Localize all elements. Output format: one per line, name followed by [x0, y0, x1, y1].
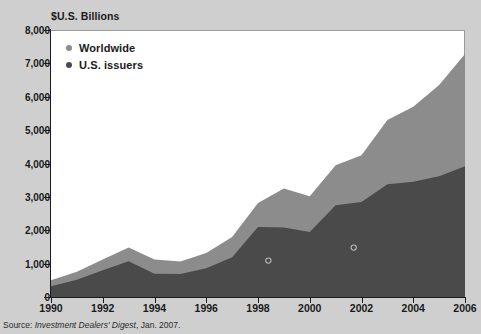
x-axis-tick-mark	[413, 297, 414, 303]
y-axis-tick-mark	[44, 197, 50, 198]
x-axis-tick-label: 1994	[143, 302, 166, 314]
legend-dot-worldwide-icon	[66, 45, 72, 51]
legend-label-worldwide: Worldwide	[79, 42, 135, 54]
y-axis-tick-mark	[44, 63, 50, 64]
x-axis-tick-mark	[155, 297, 156, 303]
x-axis-tick-label: 1990	[39, 302, 62, 314]
chart-figure: $U.S. Billions 01,0002,0003,0004,0005,00…	[0, 0, 481, 334]
source-publication: Investment Dealers' Digest	[35, 320, 136, 330]
x-axis-tick-label: 2006	[453, 302, 476, 314]
y-axis-line	[50, 29, 51, 298]
y-axis-tick-mark	[44, 297, 50, 298]
x-axis-tick-label: 1996	[195, 302, 218, 314]
y-axis-tick-mark	[44, 97, 50, 98]
x-axis-tick-label: 1998	[246, 302, 269, 314]
x-axis-tick-label: 1992	[91, 302, 114, 314]
chart-legend: Worldwide U.S. issuers	[66, 42, 143, 76]
y-axis-tick-mark	[44, 130, 50, 131]
legend-item-worldwide: Worldwide	[66, 42, 143, 54]
y-axis-tick-mark	[44, 230, 50, 231]
x-axis-tick-mark	[51, 297, 52, 303]
y-axis-tick-mark	[44, 30, 50, 31]
y-axis-unit-label: $U.S. Billions	[51, 10, 120, 22]
x-axis-tick-label: 2002	[350, 302, 373, 314]
x-axis-tick-label: 2000	[298, 302, 321, 314]
x-axis-tick-mark	[362, 297, 363, 303]
source-caption: Source: Investment Dealers' Digest, Jan.…	[3, 320, 180, 330]
x-axis-tick-mark	[206, 297, 207, 303]
x-axis-tick-mark	[310, 297, 311, 303]
x-axis-tick-mark	[465, 297, 466, 303]
source-prefix: Source:	[3, 320, 35, 330]
x-axis-tick-label: 2004	[402, 302, 425, 314]
y-axis-tick-group: 01,0002,0003,0004,0005,0006,0007,0008,00…	[0, 0, 50, 334]
area-series-us-issuers	[51, 166, 465, 297]
source-suffix: , Jan. 2007.	[136, 320, 180, 330]
legend-dot-us-issuers-icon	[66, 62, 72, 68]
legend-label-us-issuers: U.S. issuers	[79, 59, 143, 71]
y-axis-tick-mark	[44, 264, 50, 265]
y-axis-tick-mark	[44, 164, 50, 165]
x-axis-tick-mark	[258, 297, 259, 303]
legend-item-us-issuers: U.S. issuers	[66, 59, 143, 71]
x-axis-tick-mark	[103, 297, 104, 303]
